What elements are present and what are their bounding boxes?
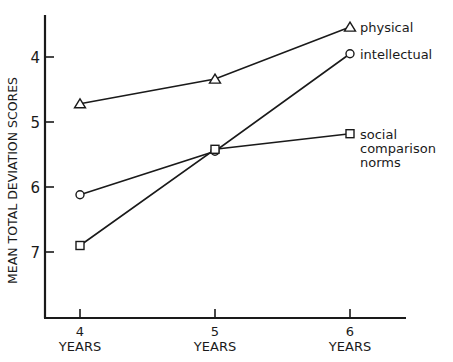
y-tick-label: 4: [30, 49, 40, 67]
series-label: comparison: [360, 141, 436, 156]
x-tick-label: 5: [211, 324, 219, 339]
square-marker: [76, 242, 84, 250]
series-layer: [75, 22, 356, 249]
y-axis-title: MEAN TOTAL DEVIATION SCORES: [5, 77, 20, 284]
line-chart: 45674YEARS5YEARS6YEARSMEAN TOTAL DEVIATI…: [0, 0, 453, 362]
triangle-marker: [210, 74, 221, 83]
series-line-triangle: [80, 27, 350, 104]
x-tick-label: 4: [76, 324, 84, 339]
series-label: physical: [360, 20, 413, 35]
y-tick-label: 7: [30, 244, 40, 262]
triangle-marker: [345, 22, 356, 31]
axes: 45674YEARS5YEARS6YEARSMEAN TOTAL DEVIATI…: [5, 15, 406, 354]
y-tick-label: 5: [30, 114, 40, 132]
y-tick-label: 6: [30, 179, 40, 197]
circle-marker: [76, 191, 84, 199]
series-labels: physicalintellectualsocialcomparisonnorm…: [360, 20, 436, 170]
circle-marker: [346, 50, 354, 58]
series-label: social: [360, 127, 397, 142]
x-tick-label: 6: [346, 324, 354, 339]
x-tick-sublabel: YEARS: [328, 339, 371, 354]
square-marker: [211, 145, 219, 153]
x-tick-sublabel: YEARS: [193, 339, 236, 354]
series-label: intellectual: [360, 47, 432, 62]
square-marker: [346, 130, 354, 138]
x-tick-sublabel: YEARS: [58, 339, 101, 354]
series-label: norms: [360, 155, 401, 170]
